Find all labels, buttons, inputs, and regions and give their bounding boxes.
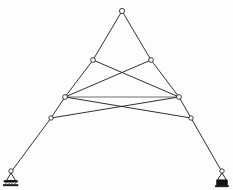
joint-upper-left — [91, 58, 96, 63]
truss-svg-canvas — [0, 0, 233, 190]
support-left-ground-bar — [4, 185, 19, 186]
truss-diagram-figure — [0, 0, 233, 190]
truss-joints-group — [49, 8, 193, 120]
joint-upper-right — [149, 58, 154, 63]
member-apex-upper-right — [122, 11, 151, 60]
support-right-triangle-icon — [218, 173, 227, 180]
support-right-group — [216, 169, 229, 187]
joint-mid-right — [177, 95, 182, 100]
member-mid-left-lower-left — [51, 97, 65, 118]
member-mid-right-lower-right — [179, 97, 191, 118]
member-apex-upper-left — [93, 11, 122, 60]
member-diagonal-upper-right-to-mid-left — [65, 60, 151, 97]
member-diagonal-upper-left-to-mid-right — [93, 60, 179, 97]
support-left-base-plate — [4, 181, 18, 183]
joint-apex — [119, 8, 124, 13]
support-right-base-block — [217, 180, 228, 186]
truss-members-group — [11, 11, 222, 172]
member-diagonal-lower-right-to-mid-left — [65, 97, 191, 118]
support-left-triangle-icon — [7, 173, 16, 181]
joint-lower-left — [49, 116, 53, 120]
joint-mid-left — [63, 95, 68, 100]
support-right-ground-bar — [216, 186, 229, 187]
member-diagonal-lower-left-to-mid-right — [51, 97, 179, 118]
member-lower-left-support-left — [11, 118, 51, 172]
joint-lower-right — [189, 116, 193, 120]
support-left-group — [4, 169, 19, 186]
member-lower-right-support-right — [191, 118, 222, 172]
